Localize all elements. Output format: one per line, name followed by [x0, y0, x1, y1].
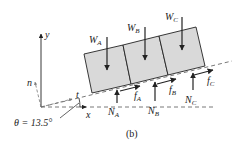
figure-caption: (b) — [126, 128, 138, 140]
angle-leader — [60, 103, 79, 118]
t-axis — [41, 99, 72, 107]
n-axis-label: n — [27, 77, 32, 88]
weight-b-label: WB — [127, 22, 140, 35]
normal-a-label: NA — [107, 106, 120, 119]
normal-b-label: NB — [147, 105, 160, 118]
friction-b-label: fB — [169, 84, 177, 97]
weight-c-label: WC — [165, 11, 178, 24]
friction-b-arrow — [157, 79, 176, 84]
friction-a-label: fA — [134, 90, 142, 103]
angle-arc — [79, 98, 80, 107]
free-body-diagram: y x n t θ = 13.5° WA WB WC NA NB NC fA f… — [0, 0, 249, 145]
y-axis-label: y — [44, 29, 50, 40]
friction-a-arrow — [120, 86, 140, 91]
t-axis-label: t — [76, 89, 79, 100]
x-axis-label: x — [85, 109, 91, 120]
normal-c-label: NC — [184, 94, 197, 107]
friction-c-arrow — [194, 70, 213, 75]
n-axis — [35, 82, 41, 107]
friction-c-label: fC — [207, 75, 215, 88]
weight-a-label: WA — [89, 34, 102, 47]
angle-label: θ = 13.5° — [14, 117, 52, 128]
